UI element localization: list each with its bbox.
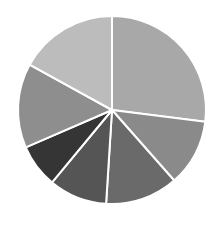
pie-slices bbox=[18, 16, 206, 204]
pie-chart-plot bbox=[0, 0, 217, 228]
pie-slice-1 bbox=[112, 16, 206, 122]
pie-chart bbox=[0, 0, 217, 228]
